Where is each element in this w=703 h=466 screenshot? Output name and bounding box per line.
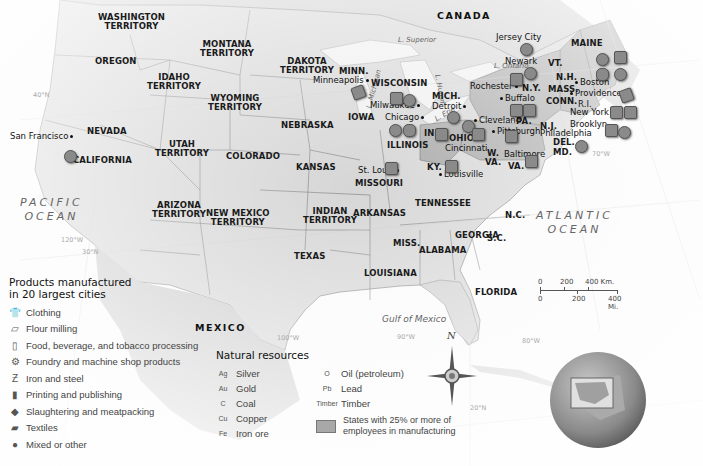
slaughtering-icon: ◆ — [9, 406, 21, 417]
foundry-icon — [596, 53, 609, 66]
city-chicago: Chicago — [385, 113, 426, 122]
state-label-conn: CONN. — [546, 97, 577, 106]
legend-item-iron-steel: ƵIron and steel — [9, 370, 198, 387]
legend-products: Products manufacturedin 20 largest citie… — [9, 276, 198, 453]
printing-icon — [624, 106, 637, 119]
state-label-kansas: KANSAS — [296, 163, 336, 172]
state-label-idaho: IDAHOTERRITORY — [147, 73, 201, 91]
state-label-del: DEL. — [553, 138, 575, 147]
state-label-louisiana: LOUISIANA — [364, 269, 417, 278]
state-label-dakota: DAKOTATERRITORY — [280, 57, 334, 75]
state-label-maine: MAINE — [571, 39, 603, 48]
slaughtering-icon — [403, 124, 416, 137]
state-label-miss: MISS. — [393, 239, 420, 248]
state-label-arizona: ARIZONATERRITORY — [152, 201, 206, 219]
iron-steel-icon: Ƶ — [9, 373, 21, 384]
city-jersey-city: Jersey City — [496, 33, 541, 42]
resource-silver: AgSilver — [216, 366, 316, 381]
resource-oil: OOil (petroleum) — [316, 366, 456, 381]
legend-resources-title: Natural resources — [216, 349, 456, 361]
latitude-30-label: 30°N — [82, 248, 98, 256]
gulf-of-mexico-label: Gulf of Mexico — [382, 314, 446, 324]
state-label-md: MD. — [553, 148, 572, 157]
state-label-ohio: OHIO — [449, 134, 474, 143]
city-detroit: Detroit — [432, 102, 468, 111]
state-label-indian: INDIANTERRITORY — [303, 207, 357, 225]
clothing-icon — [435, 128, 448, 141]
state-label-illinois: ILLINOIS — [387, 141, 429, 150]
slaughtering-icon — [523, 104, 536, 117]
flour-milling-icon: ▱ — [9, 323, 21, 334]
printing-icon — [614, 51, 627, 64]
state-label-oregon: OREGON — [95, 57, 137, 66]
resource-coal: CCoal — [216, 396, 316, 411]
longitude-80-label: 80°W — [522, 337, 540, 345]
mixed-icon: ● — [9, 439, 21, 450]
iron-steel-icon — [472, 128, 485, 141]
resource-gold: AuGold — [216, 381, 316, 396]
resource-lead: PbLead — [316, 381, 456, 396]
food-beverage-icon — [445, 160, 458, 173]
legend-item-food-beverage: ▯Food, beverage, and tobacco processing — [9, 337, 198, 354]
printing-icon: ▮ — [9, 389, 21, 400]
legend-item-foundry: ⚙Foundry and machine shop products — [9, 354, 198, 371]
foundry-icon — [510, 104, 523, 117]
resource-copper: CuCopper — [216, 411, 316, 426]
legend-resources: Natural resources AgSilver AuGold CCoal … — [216, 349, 456, 441]
legend-item-textiles: ▰Textiles — [9, 420, 198, 437]
city-providence: Providence — [568, 89, 622, 98]
textiles-icon: ▰ — [9, 422, 21, 433]
clothing-icon: 👕 — [9, 307, 21, 318]
foundry-icon — [447, 111, 460, 124]
foundry-icon — [389, 124, 402, 137]
ocean-label-atlantic: ATLANTICOCEAN — [536, 209, 613, 237]
slaughtering-icon — [596, 68, 609, 81]
legend-item-printing: ▮Printing and publishing — [9, 387, 198, 404]
state-label-wyoming: WYOMINGTERRITORY — [208, 94, 262, 112]
state-label-newmexico: NEW MEXICOTERRITORY — [206, 209, 270, 227]
state-label-nevada: NEVADA — [87, 127, 127, 136]
state-label-colorado: COLORADO — [226, 152, 280, 161]
mixed-icon — [614, 68, 627, 81]
state-label-florida: FLORIDA — [475, 288, 517, 297]
lake-superior-label: L. Superior — [398, 36, 436, 44]
city-newark: Newark — [505, 57, 537, 66]
state-label-washington: WASHINGTONTERRITORY — [98, 13, 165, 31]
country-label-canada: CANADA — [437, 10, 491, 21]
state-label-mich: MICH. — [432, 92, 461, 101]
state-label-tennessee: TENNESSEE — [415, 199, 471, 208]
city-san-francisco: San Francisco — [10, 132, 75, 141]
clothing-icon — [525, 155, 538, 168]
city-cincinnati: Cincinnati — [445, 144, 487, 153]
state-label-georgia: GEORGIA — [455, 231, 499, 240]
legend-item-mixed: ●Mixed or other — [9, 436, 198, 453]
latitude-20-label: 20°N — [470, 404, 486, 412]
mixed-icon — [520, 43, 533, 56]
food-beverage-icon: ▯ — [9, 340, 21, 351]
state-label-nebraska: NEBRASKA — [281, 121, 334, 130]
foundry-icon — [618, 126, 631, 139]
longitude-100-label: 100°W — [277, 334, 299, 342]
state-label-alabama: ALABAMA — [419, 246, 466, 255]
state-label-missouri: MISSOURI — [355, 179, 403, 188]
mixed-icon — [524, 67, 537, 80]
legend-item-slaughtering: ◆Slaughtering and meatpacking — [9, 403, 198, 420]
state-label-arkansas: ARKANSAS — [353, 209, 406, 218]
ocean-label-pacific: PACIFICOCEAN — [20, 196, 83, 224]
state-label-utah: UTAHTERRITORY — [155, 140, 209, 158]
city-philadelphia: Philadelphia — [540, 129, 592, 138]
mixed-icon — [64, 150, 77, 163]
longitude-120-label: 120°W — [61, 236, 83, 244]
legend-products-title: Products manufacturedin 20 largest citie… — [9, 276, 198, 300]
state-label-va: VA. — [508, 162, 524, 171]
state-label-ny: N.Y. — [522, 84, 541, 93]
state-label-montana: MONTANATERRITORY — [200, 40, 254, 58]
longitude-90-label: 90°W — [397, 333, 415, 341]
legend-item-clothing: 👕Clothing — [9, 304, 198, 321]
manufacturing-swatch — [316, 420, 336, 433]
mixed-icon — [575, 140, 588, 153]
state-label-california: CALIFORNIA — [73, 156, 132, 165]
food-beverage-icon — [605, 124, 618, 137]
scale-bar: 0 200 400 Km. 0 200 400 Mi. — [538, 278, 628, 308]
foundry-icon — [403, 94, 416, 107]
